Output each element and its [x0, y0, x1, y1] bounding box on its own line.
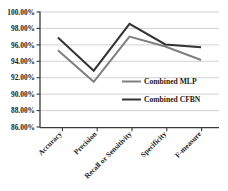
ytick-label-96: 96.00%	[11, 41, 35, 50]
legend-label-combined-cfbn: Combined CFBN	[144, 95, 201, 104]
ytick-label-90: 90.00%	[11, 90, 35, 99]
line-chart: 100.00% 98.00% 96.00% 94.00% 92.00% 90.0…	[0, 0, 228, 191]
ytick-label-98: 98.00%	[11, 24, 35, 33]
ytick-label-92: 92.00%	[11, 73, 35, 82]
legend-label-combined-mlp: Combined MLP	[144, 77, 197, 86]
chart-canvas: 100.00% 98.00% 96.00% 94.00% 92.00% 90.0…	[0, 0, 228, 191]
ytick-label-94: 94.00%	[11, 57, 35, 66]
ytick-label-88: 88.00%	[11, 106, 35, 115]
ytick-label-100: 100.00%	[7, 8, 35, 17]
ytick-label-86: 86.00%	[11, 123, 35, 132]
